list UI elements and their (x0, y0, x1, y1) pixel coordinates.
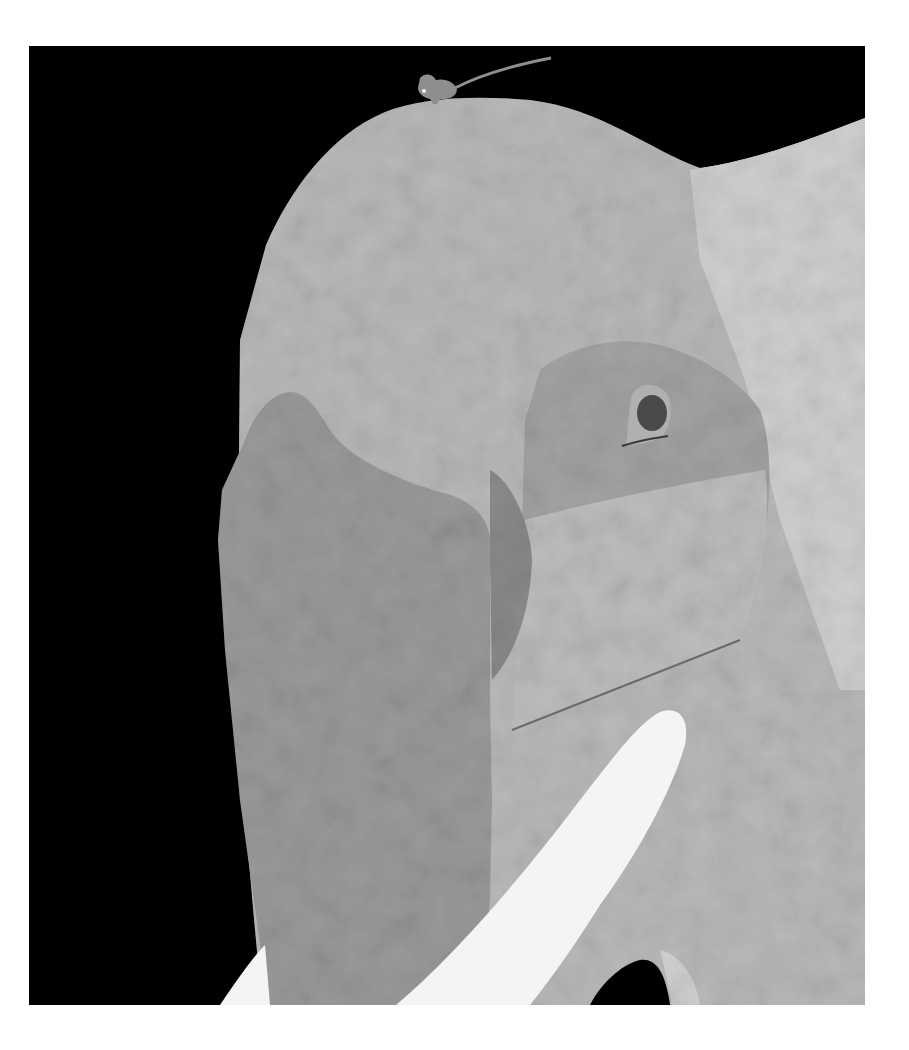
elephant-collage-artwork (0, 0, 909, 1050)
elephant-eye (637, 395, 667, 431)
mouse-eye (422, 89, 426, 93)
